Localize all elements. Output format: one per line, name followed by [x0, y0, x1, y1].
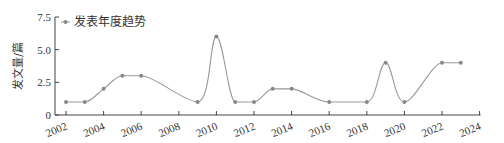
series-line	[66, 37, 461, 102]
legend-label: 发表年度趋势	[74, 14, 146, 29]
y-axis: 02.55.07.5	[37, 11, 59, 121]
x-tick-label: 2012	[232, 120, 257, 139]
data-point	[214, 35, 218, 39]
x-tick-label: 2006	[119, 120, 144, 140]
x-tick-label: 2008	[157, 120, 182, 140]
data-point	[402, 100, 406, 104]
data-point	[327, 100, 331, 104]
data-point	[440, 61, 444, 65]
legend-marker-icon	[64, 20, 68, 24]
data-point	[83, 100, 87, 104]
x-tick-label: 2010	[194, 120, 219, 140]
x-tick-label: 2022	[420, 120, 445, 139]
y-tick-label: 2.5	[37, 76, 51, 88]
data-point	[196, 100, 200, 104]
data-point	[271, 87, 275, 91]
line-chart: 02.55.07.5 20022004200620082010201220142…	[0, 0, 504, 143]
x-tick-label: 2002	[44, 120, 69, 139]
data-point	[252, 100, 256, 104]
data-point	[290, 87, 294, 91]
series-trend	[64, 35, 463, 104]
x-tick-label: 2020	[382, 120, 407, 140]
legend: 发表年度趋势	[61, 14, 146, 29]
x-tick-label: 2018	[345, 120, 370, 140]
y-tick-label: 5.0	[37, 44, 51, 56]
x-axis: 2002200420062008201020122014201620182020…	[44, 111, 483, 139]
x-tick-label: 2016	[307, 120, 332, 140]
y-tick-label: 0	[46, 109, 52, 121]
y-axis-label: 发文量/篇	[11, 42, 25, 90]
data-point	[365, 100, 369, 104]
data-point	[139, 74, 143, 78]
data-point	[102, 87, 106, 91]
data-point	[459, 61, 463, 65]
data-point	[384, 61, 388, 65]
x-tick-label: 2014	[269, 120, 294, 140]
x-tick-label: 2024	[457, 120, 482, 140]
y-tick-label: 7.5	[37, 11, 51, 23]
data-point	[120, 74, 124, 78]
data-point	[233, 100, 237, 104]
data-point	[64, 100, 68, 104]
x-tick-label: 2004	[81, 120, 106, 140]
